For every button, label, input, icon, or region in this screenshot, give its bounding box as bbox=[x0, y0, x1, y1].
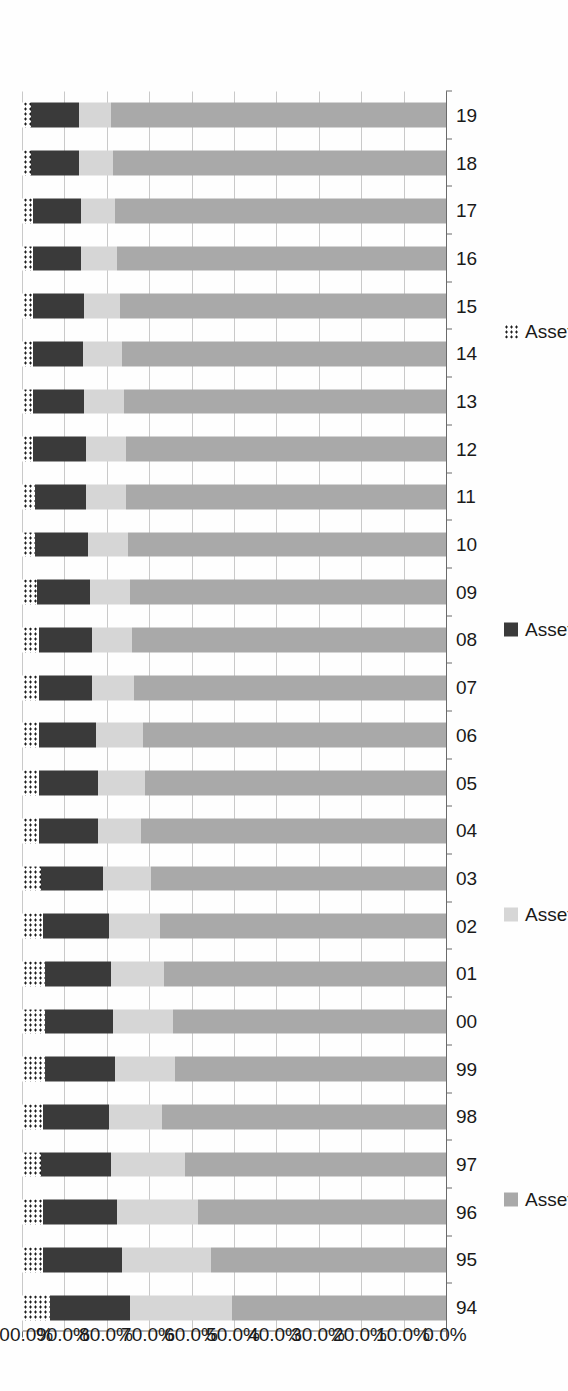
bar-segment bbox=[22, 579, 37, 604]
bar-segment bbox=[232, 1295, 446, 1320]
legend-item-s2[interactable]: Assets $100M–$1B bbox=[504, 618, 568, 640]
bar-segment bbox=[22, 150, 30, 175]
bar-segment bbox=[33, 389, 84, 414]
legend-swatch-icon bbox=[504, 1192, 518, 1206]
bar-segment bbox=[22, 1152, 41, 1177]
category-axis-label: 94 bbox=[456, 1296, 477, 1318]
bar-segment bbox=[79, 150, 113, 175]
legend-item-s0[interactable]: Assets >$10B bbox=[504, 1188, 568, 1210]
value-axis-label: 10.0% bbox=[376, 1323, 430, 1345]
bar-segment bbox=[22, 293, 33, 318]
bar-segment bbox=[151, 866, 446, 891]
category-tick bbox=[446, 853, 452, 854]
legend-swatch-icon bbox=[504, 622, 518, 636]
bar-segment bbox=[134, 675, 446, 700]
bar-segment bbox=[145, 770, 446, 795]
gridline bbox=[192, 91, 193, 1331]
bar-segment bbox=[124, 389, 446, 414]
category-axis-label: 14 bbox=[456, 342, 477, 364]
bar-segment bbox=[98, 770, 145, 795]
gridline bbox=[234, 91, 235, 1331]
bar-segment bbox=[45, 1056, 115, 1081]
bar-segment bbox=[84, 389, 124, 414]
category-axis-label: 10 bbox=[456, 533, 477, 555]
legend-label: Assets <$100M bbox=[525, 320, 568, 342]
bar-segment bbox=[86, 436, 126, 461]
bar-segment bbox=[122, 1247, 211, 1272]
bar-segment bbox=[109, 913, 160, 938]
rotation-wrapper: 100.0%90.0%80.0%70.0%60.0%50.0%40.0%30.0… bbox=[0, 0, 568, 1391]
category-axis-label: 07 bbox=[456, 676, 477, 698]
bar-stack bbox=[22, 961, 446, 986]
category-axis-label: 13 bbox=[456, 390, 477, 412]
category-axis-label: 97 bbox=[456, 1153, 477, 1175]
bar-segment bbox=[81, 198, 115, 223]
bar-segment bbox=[143, 722, 446, 747]
bar-segment bbox=[43, 913, 109, 938]
legend-label: Assets $1B–$10B bbox=[525, 903, 568, 925]
bar-segment bbox=[117, 246, 446, 271]
category-tick bbox=[446, 185, 452, 186]
category-axis-label: 18 bbox=[456, 152, 477, 174]
bar-segment bbox=[128, 532, 446, 557]
bar-segment bbox=[37, 579, 90, 604]
bar-segment bbox=[130, 1295, 232, 1320]
bar-stack bbox=[22, 436, 446, 461]
legend-item-s3[interactable]: Assets <$100M bbox=[504, 320, 568, 342]
bar-segment bbox=[43, 1199, 117, 1224]
bar-segment bbox=[22, 913, 43, 938]
bar-segment bbox=[35, 532, 88, 557]
bar-segment bbox=[115, 1056, 174, 1081]
gridline bbox=[22, 91, 23, 1331]
bar-stack bbox=[22, 150, 446, 175]
bar-segment bbox=[120, 293, 446, 318]
bar-segment bbox=[126, 484, 446, 509]
category-axis-label: 99 bbox=[456, 1058, 477, 1080]
bar-segment bbox=[90, 579, 130, 604]
category-axis-label: 09 bbox=[456, 581, 477, 603]
bar-segment bbox=[84, 293, 120, 318]
bar-segment bbox=[39, 770, 98, 795]
bar-segment bbox=[22, 1056, 45, 1081]
bar-segment bbox=[31, 102, 80, 127]
category-tick bbox=[446, 567, 452, 568]
bar-stack bbox=[22, 198, 446, 223]
category-tick bbox=[446, 1187, 452, 1188]
bar-segment bbox=[22, 627, 39, 652]
bar-segment bbox=[81, 246, 117, 271]
bar-segment bbox=[45, 961, 111, 986]
bar-stack bbox=[22, 913, 446, 938]
bar-segment bbox=[175, 1056, 446, 1081]
bar-stack bbox=[22, 627, 446, 652]
bar-segment bbox=[22, 389, 33, 414]
bar-segment bbox=[162, 1104, 446, 1129]
category-axis-label: 01 bbox=[456, 962, 477, 984]
bar-segment bbox=[96, 722, 143, 747]
category-tick bbox=[446, 424, 452, 425]
gridline bbox=[64, 91, 65, 1331]
bar-segment bbox=[35, 484, 86, 509]
category-tick bbox=[446, 1235, 452, 1236]
category-tick bbox=[446, 1092, 452, 1093]
bar-stack bbox=[22, 246, 446, 271]
bar-segment bbox=[111, 961, 164, 986]
bar-segment bbox=[79, 102, 111, 127]
legend-swatch-icon bbox=[504, 907, 518, 921]
bar-segment bbox=[164, 961, 446, 986]
category-axis-label: 03 bbox=[456, 867, 477, 889]
bar-segment bbox=[113, 1009, 172, 1034]
bar-segment bbox=[22, 675, 39, 700]
legend-item-s1[interactable]: Assets $1B–$10B bbox=[504, 903, 568, 925]
bar-segment bbox=[50, 1295, 131, 1320]
bar-segment bbox=[39, 722, 96, 747]
bar-stack bbox=[22, 1056, 446, 1081]
bar-segment bbox=[83, 341, 121, 366]
category-tick bbox=[446, 662, 452, 663]
bar-stack bbox=[22, 532, 446, 557]
category-tick bbox=[446, 901, 452, 902]
category-tick bbox=[446, 90, 452, 91]
bar-stack bbox=[22, 341, 446, 366]
bar-segment bbox=[22, 102, 30, 127]
bar-segment bbox=[22, 818, 39, 843]
category-tick bbox=[446, 233, 452, 234]
